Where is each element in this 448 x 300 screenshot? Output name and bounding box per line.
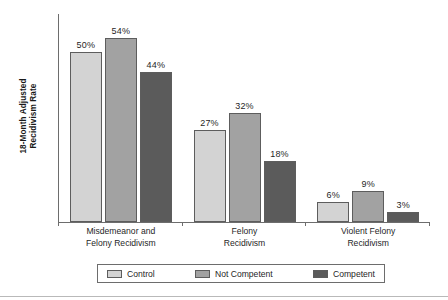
page-bottom-rule <box>0 296 448 297</box>
legend-label: Control <box>127 269 155 279</box>
legend-swatch-icon <box>313 270 328 278</box>
bar-slot: 27% <box>192 14 227 222</box>
bar-slot: 3% <box>386 14 421 222</box>
y-axis-title-line-2: Recidivism Rate <box>29 84 39 149</box>
category-label-line: Misdemeanor and <box>59 226 183 238</box>
bar-value-label: 27% <box>200 118 219 128</box>
category-label-line: Felony <box>183 226 307 238</box>
bar-value-label: 44% <box>147 60 166 70</box>
bar-slot: 6% <box>316 14 351 222</box>
y-axis-title: 18-Month Adjusted Recidivism Rate <box>14 48 44 184</box>
bar-value-label: 6% <box>326 190 339 200</box>
bar-group: 50%54%44% <box>59 14 183 222</box>
bar-slot: 44% <box>138 14 173 222</box>
bar-value-label: 9% <box>361 179 374 189</box>
bar-control[interactable] <box>70 52 102 222</box>
bar-groups: 50%54%44%27%32%18%6%9%3% <box>59 14 430 222</box>
legend-item-not-competent[interactable]: Not Competent <box>195 269 273 279</box>
legend-swatch-icon <box>195 270 210 278</box>
y-axis-title-line-1: 18-Month Adjusted <box>19 78 29 153</box>
legend-item-competent[interactable]: Competent <box>313 269 375 279</box>
bar-slot: 54% <box>103 14 138 222</box>
recidivism-bar-chart: 18-Month Adjusted Recidivism Rate 50%54%… <box>0 0 448 300</box>
bar-competent[interactable] <box>264 161 296 222</box>
category-label: Misdemeanor andFelony Recidivism <box>59 226 183 249</box>
legend-swatch-icon <box>107 270 122 278</box>
bar-not-competent[interactable] <box>105 38 137 222</box>
bar-group: 27%32%18% <box>183 14 307 222</box>
bar-control[interactable] <box>194 130 226 222</box>
bar-value-label: 18% <box>270 149 289 159</box>
x-axis-category-labels: Misdemeanor andFelony RecidivismFelonyRe… <box>59 226 430 249</box>
bar-slot: 50% <box>68 14 103 222</box>
bar-value-label: 50% <box>77 40 96 50</box>
bar-value-label: 54% <box>112 26 131 36</box>
category-label-line: Recidivism <box>183 238 307 250</box>
chart-legend: ControlNot CompetentCompetent <box>97 264 385 283</box>
legend-label: Not Competent <box>215 269 273 279</box>
category-label: FelonyRecidivism <box>183 226 307 249</box>
category-label-line: Recidivism <box>306 238 430 250</box>
bar-not-competent[interactable] <box>229 113 261 222</box>
category-label-line: Violent Felony <box>306 226 430 238</box>
x-axis-line <box>58 222 430 223</box>
bar-competent[interactable] <box>140 72 172 222</box>
category-label: Violent FelonyRecidivism <box>306 226 430 249</box>
category-label-line: Felony Recidivism <box>59 238 183 250</box>
legend-label: Competent <box>333 269 375 279</box>
bar-group: 6%9%3% <box>306 14 430 222</box>
bar-not-competent[interactable] <box>352 191 384 222</box>
legend-item-control[interactable]: Control <box>107 269 155 279</box>
bar-value-label: 32% <box>235 101 254 111</box>
bar-competent[interactable] <box>387 212 419 222</box>
bar-slot: 9% <box>351 14 386 222</box>
plot-area: 50%54%44%27%32%18%6%9%3% <box>58 14 430 223</box>
bar-slot: 18% <box>262 14 297 222</box>
bar-slot: 32% <box>227 14 262 222</box>
bar-value-label: 3% <box>396 200 409 210</box>
bar-control[interactable] <box>317 202 349 222</box>
